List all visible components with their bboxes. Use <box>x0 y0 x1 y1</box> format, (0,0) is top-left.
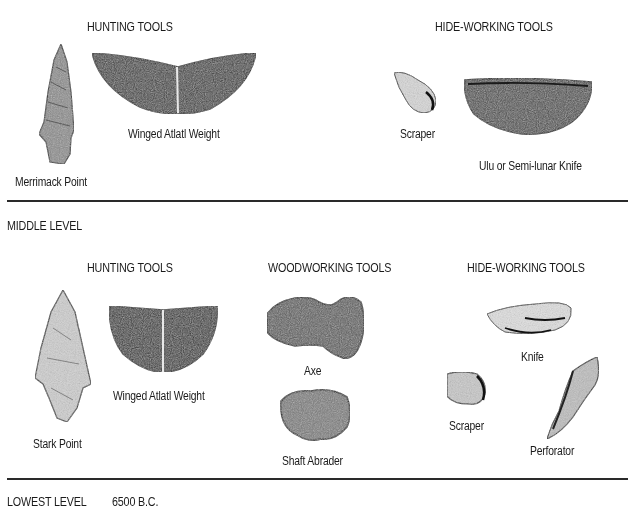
middle-winged-atlatl-weight-label: Winged Atlatl Weight <box>113 389 205 403</box>
shaft-abrader-image <box>277 387 353 443</box>
knife-label: Knife <box>521 350 544 364</box>
ulu-semi-lunar-knife-image <box>462 76 594 136</box>
stark-point-label: Stark Point <box>33 437 82 451</box>
upper-winged-atlatl-weight-label: Winged Atlatl Weight <box>128 127 220 141</box>
shaft-abrader-label: Shaft Abrader <box>282 454 343 468</box>
middle-level-divider <box>7 478 628 480</box>
upper-scraper-label: Scraper <box>400 127 435 141</box>
middle-winged-atlatl-weight-image <box>107 302 219 374</box>
stark-point-image <box>33 288 93 422</box>
middle-hunting-tools-heading: HUNTING TOOLS <box>87 261 173 275</box>
merrimack-point-image <box>36 42 80 164</box>
middle-hide-working-tools-heading: HIDE-WORKING TOOLS <box>467 261 585 275</box>
upper-level-divider <box>7 200 628 202</box>
middle-scraper-label: Scraper <box>449 419 484 433</box>
middle-level-label: MIDDLE LEVEL <box>7 219 82 233</box>
axe-label: Axe <box>304 364 321 378</box>
axe-image <box>265 292 367 362</box>
perforator-image <box>543 355 601 439</box>
middle-scraper-image <box>445 370 487 406</box>
lowest-level-date: 6500 B.C. <box>112 495 158 509</box>
knife-image <box>485 300 573 336</box>
upper-hunting-tools-heading: HUNTING TOOLS <box>87 20 173 34</box>
perforator-label: Perforator <box>530 444 574 458</box>
upper-hide-working-tools-heading: HIDE-WORKING TOOLS <box>435 20 553 34</box>
upper-scraper-image <box>392 70 438 114</box>
woodworking-tools-heading: WOODWORKING TOOLS <box>268 261 391 275</box>
merrimack-point-label: Merrimack Point <box>15 175 87 189</box>
upper-winged-atlatl-weight-image <box>90 47 258 115</box>
lowest-level-label: LOWEST LEVEL <box>7 495 87 509</box>
ulu-semi-lunar-knife-label: Ulu or Semi-lunar Knife <box>479 159 582 173</box>
